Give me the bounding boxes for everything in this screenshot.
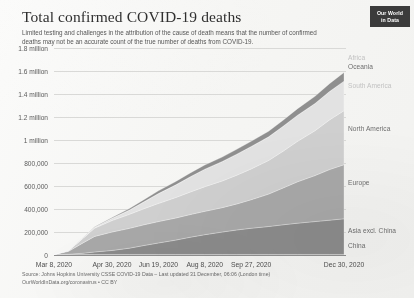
logo-line-2: in Data bbox=[381, 17, 399, 23]
y-axis-tick-label: 1 million bbox=[24, 137, 48, 144]
x-axis-tick-label: Jun 19, 2020 bbox=[139, 261, 178, 268]
x-axis-tick-label: Sep 27, 2020 bbox=[231, 261, 271, 268]
our-world-in-data-logo[interactable]: Our World in Data bbox=[370, 6, 410, 27]
page-title: Total confirmed COVID-19 deaths bbox=[22, 8, 322, 25]
y-axis-tick-label: 400,000 bbox=[24, 206, 48, 213]
source-note: Source: Johns Hopkins University CSSE CO… bbox=[22, 271, 270, 279]
y-axis-tick-label: 1.2 million bbox=[18, 114, 48, 121]
legend-label-africa[interactable]: Africa bbox=[348, 54, 365, 61]
y-axis-tick-label: 200,000 bbox=[24, 229, 48, 236]
plot-area: 0200,000400,000600,000800,0001 million1.… bbox=[54, 48, 344, 255]
y-axis-tick-label: 1.4 million bbox=[18, 91, 48, 98]
legend-label-europe[interactable]: Europe bbox=[348, 178, 370, 185]
chart-page: Total confirmed COVID-19 deaths Limited … bbox=[0, 0, 414, 298]
y-axis-tick-label: 800,000 bbox=[24, 160, 48, 167]
legend-label-asia-excl-china[interactable]: Asia excl. China bbox=[348, 227, 396, 234]
x-axis-tick-label: Apr 30, 2020 bbox=[93, 261, 132, 268]
y-axis-tick-label: 0 bbox=[44, 252, 48, 259]
axis-baseline bbox=[54, 255, 346, 256]
chart-subtitle: Limited testing and challenges in the at… bbox=[22, 29, 330, 47]
stacked-area-series bbox=[54, 48, 344, 255]
chart-footer: Source: Johns Hopkins University CSSE CO… bbox=[22, 271, 270, 287]
legend-label-oceania[interactable]: Oceania bbox=[348, 62, 373, 69]
y-axis-tick-label: 1.6 million bbox=[18, 68, 48, 75]
x-axis-tick-label: Mar 8, 2020 bbox=[36, 261, 72, 268]
x-axis-tick-label: Dec 30, 2020 bbox=[324, 261, 364, 268]
x-axis-tick-label: Aug 8, 2020 bbox=[186, 261, 223, 268]
legend-label-china[interactable]: China bbox=[348, 242, 365, 249]
chart-header: Total confirmed COVID-19 deaths Limited … bbox=[22, 8, 322, 47]
legend-label-south-america[interactable]: South America bbox=[348, 82, 392, 89]
y-axis-tick-label: 1.8 million bbox=[18, 45, 48, 52]
license-note[interactable]: OurWorldInData.org/coronavirus • CC BY bbox=[22, 279, 270, 287]
y-axis-tick-label: 600,000 bbox=[24, 183, 48, 190]
legend-label-north-america[interactable]: North America bbox=[348, 124, 390, 131]
